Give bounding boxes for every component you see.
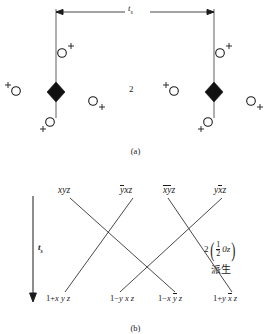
atom-glyph-a-right-upper: O (215, 47, 223, 58)
top-term-1-part-3: z (66, 185, 70, 195)
bottom-term-1-part-3: z (67, 293, 70, 303)
bottom-term-3-part-3: z (179, 293, 182, 303)
top-term-2-part-1: y (120, 186, 124, 196)
annotation-note-cjk: 派生 (211, 261, 231, 276)
top-term-2-part-3: z (128, 185, 132, 195)
annotation-fraction: 1 2 (216, 241, 220, 259)
top-term-4-part-3: z (222, 185, 226, 195)
translation-arrow-label: ts (38, 243, 43, 254)
bottom-term-1: 1+x y z (46, 294, 70, 303)
top-term-ybar-x-z: yxz (120, 186, 132, 196)
translation-subscript: s (41, 248, 43, 254)
annotation-expression: 2 ( 1 2 0z ) (204, 241, 237, 259)
atom-glyph-a-far-right: O (246, 95, 254, 106)
bottom-term-2-part-3: z (131, 293, 134, 303)
bottom-term-4-part-1: y (222, 293, 226, 303)
fraction-denominator: 2 (216, 249, 220, 258)
paren-close: ) (231, 242, 235, 258)
atom-glyph-a-left-upper: O (57, 47, 65, 58)
bottom-term-1-part-1: x (55, 293, 59, 303)
top-term-3-part-2: y (167, 186, 171, 196)
bottom-term-4-part-3: z (234, 293, 237, 303)
bottom-term-3-part-1: x (167, 293, 171, 303)
top-term-3-part-3: z (171, 185, 175, 195)
arrowhead-down (30, 293, 37, 302)
caption-panel-b: (b) (0, 324, 271, 333)
translation-arrow-down (30, 196, 37, 302)
bottom-term-1-part-2: y (61, 293, 65, 303)
top-term-4-part-2: x (218, 186, 222, 196)
atom-glyph-a-left-lower: O (45, 116, 53, 127)
fraction-numerator: 1 (216, 241, 220, 249)
bottom-term-2-part-2: x (125, 293, 129, 303)
annotation-tail: 0z (222, 245, 230, 254)
bottom-term-3: 1−x y z (158, 294, 182, 303)
top-term-xbar-ybar-z: xyz (163, 186, 175, 196)
atom-glyph-a-far-left: O (11, 85, 19, 96)
annotation-coefficient: 2 (204, 245, 209, 254)
atom-glyph-a-mid-right: O (169, 85, 177, 96)
bottom-term-3-part-2: y (173, 294, 177, 303)
bottom-term-2: 1−y x z (110, 294, 134, 303)
figure-root: ts 2 (a) ts xyz yxz xyz yxz 1 (0, 0, 271, 334)
bottom-term-4-part-2: x (228, 294, 232, 303)
top-term-y-xbar-z: yxz (214, 186, 226, 196)
bottom-term-2-part-1: y (119, 293, 123, 303)
atom-glyph-a-mid-left: O (88, 95, 96, 106)
top-term-xyz: xyz (58, 186, 70, 196)
paren-open: ( (210, 242, 214, 258)
panel-b-graphics (0, 0, 271, 334)
atom-glyph-a-right-lower: O (203, 116, 211, 127)
bottom-term-4: 1+y x z (213, 294, 237, 303)
